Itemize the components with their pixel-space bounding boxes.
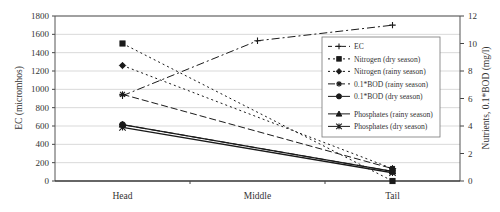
x-category-label: Tail <box>385 191 400 201</box>
legend-label: 0.1*BOD (dry season) <box>354 92 423 101</box>
legend-label: Phosphates (dry season) <box>354 122 428 131</box>
tick-label-right: 12 <box>468 11 477 21</box>
square-marker-icon <box>337 57 341 61</box>
tick-label-left: 1400 <box>31 48 50 58</box>
x-category-label: Head <box>112 191 132 201</box>
star-marker-icon <box>336 81 342 87</box>
star-marker-icon <box>119 91 125 97</box>
tick-label-right: 4 <box>468 121 473 131</box>
diamond-marker-icon <box>119 62 125 68</box>
tick-label-left: 1200 <box>31 66 50 76</box>
tick-label-right: 6 <box>468 94 473 104</box>
tick-label-left: 1000 <box>31 84 50 94</box>
legend: ECNitrogen (dry season)Nitrogen (rainy s… <box>322 37 440 137</box>
x-category-label: Middle <box>244 191 271 201</box>
tick-label-right: 0 <box>468 176 473 186</box>
tick-label-left: 1800 <box>31 11 50 21</box>
legend-label: Nitrogen (rainy season) <box>354 67 426 76</box>
legend-label: Nitrogen (dry season) <box>354 55 421 64</box>
square-marker-icon <box>390 178 395 183</box>
legend-label: EC <box>354 42 364 51</box>
circle-marker-icon <box>336 94 341 99</box>
tick-label-left: 800 <box>36 103 50 113</box>
tick-label-right: 10 <box>468 39 478 49</box>
plus-marker-icon <box>389 22 395 28</box>
square-marker-icon <box>120 41 125 46</box>
y-axis-right-label: Nutrients, 0.1*BOD (mg/l) <box>481 47 492 150</box>
plus-marker-icon <box>254 38 260 44</box>
tick-label-right: 2 <box>468 149 473 159</box>
y-axis-left-label: EC (micromhos) <box>14 66 25 130</box>
tick-label-left: 200 <box>36 158 50 168</box>
dual-axis-line-chart: 0200400600800100012001400160018000246810… <box>0 0 500 212</box>
tick-label-left: 400 <box>36 139 50 149</box>
legend-label: Phosphates (rainy season) <box>354 110 433 119</box>
tick-label-left: 0 <box>45 176 50 186</box>
legend-label: 0.1*BOD (rainy season) <box>354 80 428 89</box>
tick-label-left: 600 <box>36 121 50 131</box>
tick-label-left: 1600 <box>31 29 50 39</box>
tick-label-right: 8 <box>468 66 473 76</box>
